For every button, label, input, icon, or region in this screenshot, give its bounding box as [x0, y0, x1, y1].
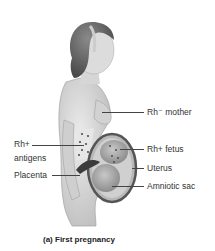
- placenta-leader-line: [52, 175, 80, 176]
- uterus-leader-line: [132, 168, 144, 169]
- label-placenta: Placenta: [14, 170, 47, 180]
- label-amniotic-sac: Amniotic sac: [147, 181, 195, 191]
- fetus-head-shape: [92, 164, 120, 192]
- amniotic-sac-leader-line: [112, 186, 144, 187]
- antigens-leader-line: [32, 145, 84, 146]
- fetus-leader-line: [120, 149, 144, 150]
- figure-caption: (a) First pregnancy: [43, 235, 115, 244]
- fetus-body-shape: [100, 140, 128, 164]
- label-rh-negative-mother: Rh⁻ mother: [147, 107, 192, 117]
- pregnant-woman-illustration: [0, 0, 215, 251]
- rh-pregnancy-figure: Rh⁻ mother Rh+ antigens Placenta Rh+ fet…: [0, 0, 215, 251]
- label-uterus: Uterus: [147, 163, 172, 173]
- label-rh-positive-antigens-line2: antigens: [14, 153, 46, 163]
- label-rh-positive-antigens-line1: Rh+: [14, 139, 30, 149]
- label-rh-positive-fetus: Rh+ fetus: [147, 144, 184, 154]
- mother-leader-line: [102, 112, 144, 113]
